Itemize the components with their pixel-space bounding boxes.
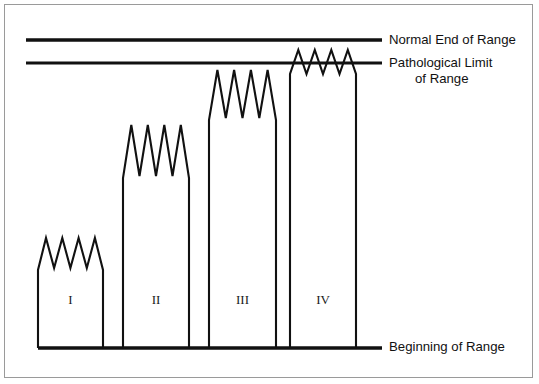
- figure-canvas: Normal End of Range Pathological Limitof…: [0, 0, 539, 384]
- label-pathological-limit-line1: Pathological Limit: [389, 55, 492, 70]
- label-beginning-of-range: Beginning of Range: [389, 339, 505, 355]
- label-pathological-limit-line2: of Range: [389, 71, 492, 87]
- bar-label-grade-3: III: [209, 292, 276, 308]
- bar-grade-2: [123, 125, 189, 348]
- label-normal-end-of-range: Normal End of Range: [389, 32, 516, 48]
- label-pathological-limit-of-range: Pathological Limitof Range: [389, 55, 492, 86]
- bar-label-grade-4: IV: [290, 292, 356, 308]
- bar-label-grade-2: II: [123, 292, 189, 308]
- bar-label-grade-1: I: [38, 292, 103, 308]
